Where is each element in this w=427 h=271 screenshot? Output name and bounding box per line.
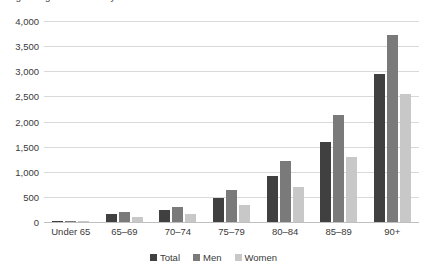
bar-group	[312, 21, 366, 222]
bar-women[interactable]	[400, 94, 411, 222]
bar-group	[258, 21, 312, 222]
bar-group	[365, 21, 419, 222]
legend-label: Women	[245, 252, 278, 263]
y-axis-tick-label: 2,000	[0, 116, 39, 127]
legend-item-men[interactable]: Men	[193, 252, 221, 263]
x-axis-tick-label: 70–74	[151, 226, 205, 237]
bar-women[interactable]	[293, 187, 304, 222]
y-axis-tick-label: 3,500	[0, 41, 39, 52]
y-axis-tick-label: 3,000	[0, 66, 39, 77]
legend-swatch-icon	[193, 254, 200, 261]
x-axis-tick-label: 75–79	[205, 226, 259, 237]
x-axis-tick-label: 90+	[365, 226, 419, 237]
bar-group	[205, 21, 259, 222]
bar-men[interactable]	[226, 190, 237, 222]
legend-label: Men	[203, 252, 221, 263]
bar-total[interactable]	[106, 214, 117, 222]
y-axis-tick-label: 500	[0, 191, 39, 202]
x-axis-tick-label: 80–84	[258, 226, 312, 237]
legend-item-women[interactable]: Women	[235, 252, 278, 263]
bar-group	[151, 21, 205, 222]
y-axis-tick-label: 4,000	[0, 16, 39, 27]
bar-total[interactable]	[374, 74, 385, 222]
y-axis-tick-label: 0	[0, 217, 39, 228]
bar-women[interactable]	[346, 157, 357, 222]
x-axis-tick-label: Under 65	[44, 226, 98, 237]
bar-women[interactable]	[185, 214, 196, 222]
bar-total[interactable]	[213, 198, 224, 222]
bar-women[interactable]	[239, 205, 250, 222]
x-axis-tick-labels: Under 6565–6970–7475–7980–8485–8990+	[44, 226, 419, 237]
bar-total[interactable]	[320, 142, 331, 222]
y-axis-tick-label: 1,000	[0, 166, 39, 177]
bar-total[interactable]	[52, 221, 63, 222]
legend-swatch-icon	[150, 254, 157, 261]
bar-men[interactable]	[387, 35, 398, 222]
bar-total[interactable]	[159, 210, 170, 222]
x-axis-tick-label: 65–69	[98, 226, 152, 237]
chart-legend: TotalMenWomen	[0, 252, 427, 263]
bar-group	[98, 21, 152, 222]
chart-container: Figure: Age distribution by sex 4,0003,5…	[0, 0, 427, 271]
chart-title: Figure: Age distribution by sex	[8, 0, 423, 2]
bar-men[interactable]	[119, 212, 130, 222]
bar-women[interactable]	[78, 221, 89, 222]
y-axis-tick-label: 2,500	[0, 91, 39, 102]
bar-men[interactable]	[65, 221, 76, 222]
bar-men[interactable]	[280, 161, 291, 222]
plot-area	[44, 21, 419, 222]
bar-groups	[44, 21, 419, 222]
y-axis-tick-label: 1,500	[0, 141, 39, 152]
legend-label: Total	[160, 252, 180, 263]
x-axis-tick-label: 85–89	[312, 226, 366, 237]
gridline	[44, 222, 419, 223]
legend-swatch-icon	[235, 254, 242, 261]
bar-men[interactable]	[333, 115, 344, 222]
bar-women[interactable]	[132, 217, 143, 222]
bar-men[interactable]	[172, 207, 183, 222]
legend-item-total[interactable]: Total	[150, 252, 180, 263]
bar-group	[44, 21, 98, 222]
bar-total[interactable]	[267, 176, 278, 222]
